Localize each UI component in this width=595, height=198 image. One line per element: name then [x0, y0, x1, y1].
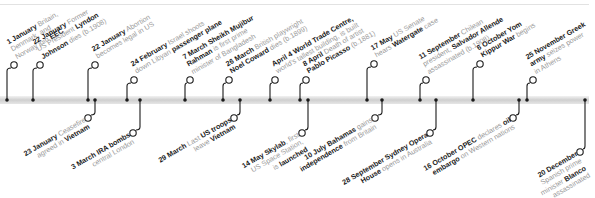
- event-node-icon: [131, 77, 137, 83]
- tick-dot: [5, 98, 9, 102]
- tick-dot: [268, 98, 272, 102]
- event-node-icon: [187, 77, 193, 83]
- event-node-icon: [371, 61, 377, 67]
- event-marker: [231, 98, 242, 121]
- tick-dot: [221, 98, 225, 102]
- tick-dot: [183, 98, 187, 102]
- tick-dot: [86, 98, 90, 102]
- tick-dot: [93, 98, 97, 102]
- event-marker: [125, 77, 137, 102]
- tick-dot: [31, 98, 35, 102]
- event-node-icon: [11, 62, 17, 68]
- event-marker: [130, 98, 142, 136]
- event-node-icon: [423, 77, 429, 83]
- event-marker: [5, 62, 17, 102]
- tick-dot: [365, 98, 369, 102]
- tick-dot: [434, 98, 438, 102]
- tick-dot: [125, 98, 129, 102]
- tick-dot: [138, 98, 142, 102]
- tick-dot: [517, 98, 521, 102]
- event-marker: [510, 98, 521, 121]
- tick-dot: [380, 98, 384, 102]
- event-marker: [268, 77, 278, 102]
- event-node-icon: [303, 77, 309, 83]
- event-marker: [298, 77, 309, 102]
- event-marker: [299, 98, 310, 136]
- event-marker: [86, 62, 98, 102]
- tick-dot: [418, 98, 422, 102]
- event-marker: [221, 77, 232, 102]
- tick-dot: [583, 98, 587, 102]
- event-node-icon: [37, 62, 43, 68]
- event-marker: [577, 98, 587, 155]
- event-marker: [365, 61, 377, 102]
- event-node-icon: [272, 77, 278, 83]
- event-node-icon: [226, 77, 232, 83]
- event-marker: [525, 77, 536, 102]
- event-marker: [471, 61, 483, 102]
- event-node-icon: [530, 77, 536, 83]
- event-marker: [427, 98, 438, 136]
- tick-dot: [238, 98, 242, 102]
- event-marker: [372, 98, 384, 121]
- tick-dot: [306, 98, 310, 102]
- event-node-icon: [92, 62, 98, 68]
- event-node-icon: [477, 61, 483, 67]
- tick-dot: [298, 98, 302, 102]
- event-marker: [418, 77, 429, 102]
- event-marker: [85, 98, 97, 121]
- event-marker: [31, 62, 43, 102]
- event-marker: [183, 77, 193, 102]
- tick-dot: [525, 98, 529, 102]
- tick-dot: [471, 98, 475, 102]
